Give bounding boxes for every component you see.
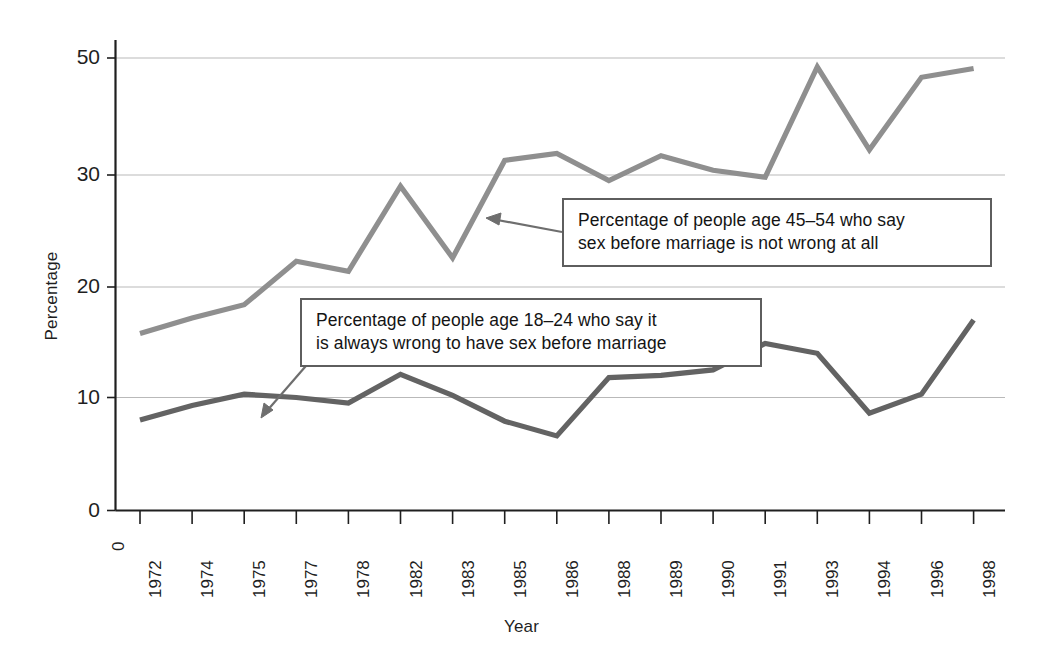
annotation-line-2: is always wrong to have sex before marri… (316, 332, 746, 355)
x-tick-label-1996: 1996 (929, 560, 946, 598)
x-tick-label-1993: 1993 (824, 560, 841, 598)
x-tick-label-1986: 1986 (564, 560, 581, 598)
x-tick-label-1978: 1978 (355, 560, 372, 598)
annotation-line-2: sex before marriage is not wrong at all (578, 232, 976, 255)
y-tick-label-0: 0 (58, 499, 100, 520)
x-tick-label-1975: 1975 (251, 560, 268, 598)
x-tick-label-1985: 1985 (512, 560, 529, 598)
annotation-callout-age-45-54: Percentage of people age 45–54 who say s… (562, 198, 992, 267)
x-axis-origin-label: 0 (110, 542, 127, 551)
line-chart-figure: 010203050 197219741975197719781982198319… (0, 0, 1043, 666)
x-tick-label-1983: 1983 (460, 560, 477, 598)
annotation-line-1: Percentage of people age 45–54 who say (578, 209, 976, 232)
y-axis-title: Percentage (42, 236, 62, 356)
x-tick-label-1974: 1974 (199, 560, 216, 598)
y-tick-label-50: 50 (58, 46, 100, 67)
y-tick-label-10: 10 (58, 386, 100, 407)
x-tick-label-1990: 1990 (720, 560, 737, 598)
x-tick-label-1972: 1972 (147, 560, 164, 598)
leader-arrowhead-45-54 (486, 213, 501, 225)
y-tick-label-30: 30 (58, 163, 100, 184)
x-tick-label-1977: 1977 (303, 560, 320, 598)
annotation-callout-age-18-24: Percentage of people age 18–24 who say i… (300, 298, 762, 367)
leader-line-45-54 (492, 219, 562, 232)
axes-group (116, 40, 1006, 511)
x-tick-label-1991: 1991 (772, 560, 789, 598)
annotation-line-1: Percentage of people age 18–24 who say i… (316, 309, 746, 332)
x-tick-label-1989: 1989 (668, 560, 685, 598)
y-tick-label-20: 20 (58, 275, 100, 296)
x-tick-label-1998: 1998 (981, 560, 998, 598)
x-tick-label-1988: 1988 (616, 560, 633, 598)
x-tick-label-1982: 1982 (408, 560, 425, 598)
y-tick-marks-group (107, 58, 116, 511)
x-tick-marks-group (140, 511, 974, 525)
x-tick-label-1994: 1994 (876, 560, 893, 598)
x-axis-title: Year (0, 617, 1043, 637)
